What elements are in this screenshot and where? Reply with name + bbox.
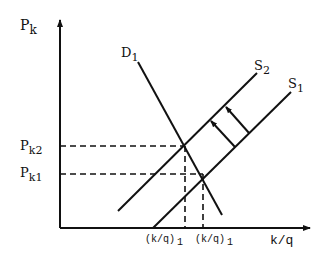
demand-curve-d1 bbox=[138, 62, 222, 215]
demand-label-d1: D1 bbox=[121, 45, 138, 64]
price-label-pk2: Pk2 bbox=[20, 138, 42, 157]
x-axis-label: k/q bbox=[270, 233, 293, 248]
y-axis-label: Pk bbox=[20, 17, 37, 37]
shift-arrow-upper bbox=[226, 107, 249, 133]
supply-curve-s2 bbox=[118, 73, 257, 211]
supply-curve-s1 bbox=[153, 92, 291, 228]
shift-arrow-lower bbox=[211, 121, 235, 147]
supply-demand-diagram: Pk k/q Pk2 Pk1 (k/q)1 (k/q)1 D1 S2 S1 bbox=[0, 0, 325, 256]
quantity-label-1: (k/q)1 bbox=[145, 234, 183, 248]
price-label-pk1: Pk1 bbox=[20, 165, 42, 184]
quantity-label-2: (k/q)1 bbox=[195, 234, 233, 248]
